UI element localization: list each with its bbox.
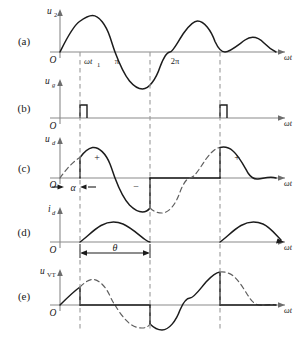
panel-b-axis-label: ωt	[284, 119, 293, 128]
panel-tag-a: (a)	[18, 35, 31, 48]
panel-b-signal-sub: g	[52, 81, 56, 88]
panel-c-y-arrowhead	[57, 137, 63, 144]
alpha-label: α	[70, 182, 76, 193]
panel-tag-c: (c)	[18, 162, 31, 175]
panel-tag-b: (b)	[18, 102, 31, 115]
panel-c-group: + + − α	[50, 137, 285, 213]
alpha-arrow-right	[80, 184, 87, 189]
tick-wt1-base: ωt	[84, 56, 93, 66]
panel-a-signal-sub: 2	[54, 11, 57, 18]
panel-e-y-arrowhead	[57, 269, 63, 276]
waveform-svg: + + − α	[0, 0, 308, 358]
panel-d-y-arrowhead	[57, 207, 63, 214]
panel-c-origin: O	[50, 180, 57, 190]
panel-a-axis-label: ωt	[284, 53, 293, 62]
alpha-arrow-left	[58, 184, 65, 189]
panel-d-theta-dimension: θ	[80, 242, 150, 259]
tick-label-wt1: ωt 1	[84, 56, 100, 68]
waveform-figure: + + − α	[0, 0, 308, 358]
panel-e-group	[50, 269, 285, 330]
panel-c-axis-label: ωt	[284, 179, 293, 188]
panel-e-ghost-arc-1	[80, 280, 150, 329]
panel-tag-e: (e)	[18, 290, 31, 303]
panel-c-conducting-segment-1	[80, 147, 150, 212]
panel-c-signal-label: u d	[45, 134, 56, 146]
panel-a-signal-label: u 2	[47, 6, 57, 18]
panel-e-signal-label: u VT	[40, 266, 56, 278]
panel-e-axis-label: ωt	[284, 306, 293, 315]
panel-d-current-hump-1	[80, 222, 150, 242]
panel-c-conducting-segment-2	[220, 147, 276, 179]
panel-e-signal-sub: VT	[47, 271, 56, 278]
panel-c-plus-sign-2: +	[234, 152, 240, 163]
panel-d-group: θ	[50, 207, 285, 258]
tick-label-pi: π	[115, 56, 120, 66]
panel-a-y-arrowhead	[57, 9, 63, 16]
panel-d-current-hump-2	[220, 222, 281, 242]
theta-label: θ	[113, 242, 118, 253]
panel-b-signal-label: u g	[45, 76, 56, 88]
panel-d-signal-sub: d	[52, 209, 56, 216]
panel-e-signal-base: u	[40, 266, 45, 276]
panel-c-ghost-negative-lobe	[150, 148, 220, 214]
panel-a-signal-base: u	[47, 6, 52, 16]
theta-arrow-left	[80, 250, 87, 256]
panel-c-signal-sub: d	[52, 139, 56, 146]
panel-e-ghost-arc-2	[220, 272, 276, 305]
panel-c-signal-base: u	[45, 134, 50, 144]
tick-label-two-pi: 2π	[171, 56, 180, 66]
panel-a-origin: O	[50, 55, 57, 65]
theta-arrow-right	[143, 250, 150, 256]
panel-d-signal-label: i d	[48, 204, 56, 216]
panel-b-origin: O	[50, 121, 57, 131]
panel-a-group	[50, 9, 285, 89]
panel-d-axis-label: ωt	[284, 243, 293, 252]
panel-b-y-arrowhead	[57, 79, 63, 86]
panel-tag-d: (d)	[18, 226, 31, 239]
panel-c-plus-sign-1: +	[94, 152, 100, 163]
panel-e-origin: O	[50, 308, 57, 318]
panel-c-ghost-pre-conduction-1	[60, 158, 80, 179]
panel-b-group	[50, 79, 285, 124]
panel-c-alpha-dimension: α	[52, 182, 96, 193]
panel-b-gate-pulse-1	[80, 105, 87, 118]
dashed-guide-lines	[80, 52, 220, 330]
panel-e-blocking-rise-1	[60, 287, 80, 305]
panel-b-signal-base: u	[45, 76, 50, 86]
panel-b-gate-pulse-2	[220, 105, 227, 118]
panel-d-origin: O	[50, 245, 57, 255]
panel-d-signal-base: i	[48, 204, 51, 214]
tick-wt1-sub: 1	[97, 61, 100, 68]
panel-c-minus-sign: −	[133, 181, 139, 192]
panel-e-reverse-blocking	[150, 272, 220, 330]
